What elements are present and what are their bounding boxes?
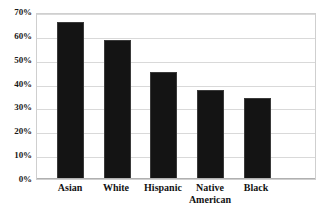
y-tick-label: 60% bbox=[0, 32, 32, 41]
y-axis: 70% 60% 50% 40% 30% 20% 10% 0% bbox=[0, 0, 34, 216]
y-tick-label: 50% bbox=[0, 56, 32, 65]
y-tick-label: 30% bbox=[0, 103, 32, 112]
bar-asian bbox=[57, 22, 84, 179]
y-tick-label: 0% bbox=[0, 175, 32, 184]
x-tick-label-black: Black bbox=[221, 182, 291, 194]
bar-hispanic bbox=[150, 72, 177, 179]
bar-white bbox=[104, 40, 131, 179]
bar-black bbox=[244, 98, 271, 179]
bar-native-american bbox=[197, 90, 224, 179]
x-axis-baseline bbox=[37, 178, 315, 179]
y-tick-label: 70% bbox=[0, 8, 32, 17]
y-tick-label: 20% bbox=[0, 127, 32, 136]
y-tick-label: 10% bbox=[0, 151, 32, 160]
bar-chart: 70% 60% 50% 40% 30% 20% 10% 0% Asian Whi… bbox=[0, 0, 325, 216]
x-axis: Asian White Hispanic Native American Bla… bbox=[36, 181, 316, 216]
plot-area bbox=[36, 13, 316, 180]
bars-layer bbox=[37, 14, 315, 179]
y-tick-label: 40% bbox=[0, 80, 32, 89]
